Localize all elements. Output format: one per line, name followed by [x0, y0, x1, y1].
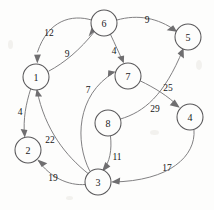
edge-layer	[21, 17, 195, 184]
edge-weight-6-7: 4	[112, 46, 117, 56]
edge-weight-6-1: 12	[44, 28, 54, 38]
edge-4-to-3	[111, 130, 194, 184]
node-label-2: 2	[26, 145, 31, 156]
edge-weight-4-3: 17	[162, 163, 172, 173]
graph-figure: 12 9 9 4 7 25 29 4 22 19 11 17 1 2	[0, 0, 214, 210]
graph-node-6[interactable]: 6	[91, 10, 117, 36]
edge-weight-6-5: 9	[145, 15, 150, 25]
graph-node-3[interactable]: 3	[85, 169, 111, 195]
arrow-head-3-7	[108, 70, 116, 77]
edge-weight-3-1: 22	[45, 135, 55, 145]
edge-6-to-1	[34, 18, 91, 64]
node-label-3: 3	[96, 177, 101, 188]
graph-node-5[interactable]: 5	[175, 24, 201, 50]
arrow-head-7-4	[170, 100, 180, 108]
arrow-head-3-2	[38, 160, 48, 168]
edge-weight-1-2: 4	[18, 107, 23, 117]
edge-weight-3-7: 7	[86, 85, 91, 95]
edge-7-to-4	[141, 81, 180, 108]
edge-1-to-6	[49, 26, 96, 71]
node-label-6: 6	[102, 18, 107, 29]
edge-weight-7-4: 25	[163, 83, 173, 93]
edge-path-4-3	[113, 130, 194, 182]
edge-weight-layer: 12 9 9 4 7 25 29 4 22 19 11 17	[18, 15, 173, 183]
edge-weight-1-6: 9	[65, 49, 70, 59]
edge-path-1-2	[24, 90, 30, 137]
arrow-head-6-1	[34, 54, 41, 63]
node-label-8: 8	[106, 118, 111, 129]
arrow-head-6-7	[117, 55, 124, 63]
node-label-7: 7	[126, 71, 131, 82]
arrow-head-1-2	[21, 129, 28, 138]
graph-node-1[interactable]: 1	[23, 64, 49, 90]
edge-weight-8-5: 29	[150, 104, 160, 114]
edge-3-to-1	[35, 89, 88, 174]
node-label-4: 4	[188, 112, 193, 123]
edge-3-to-2	[38, 160, 86, 185]
graph-node-7[interactable]: 7	[115, 63, 141, 89]
edge-8-to-3	[102, 136, 111, 172]
graph-node-8[interactable]: 8	[95, 110, 121, 136]
graph-node-4[interactable]: 4	[177, 104, 203, 130]
edge-path-1-6	[49, 32, 95, 72]
graph-canvas: 12 9 9 4 7 25 29 4 22 19 11 17 1 2	[0, 0, 214, 210]
arrow-head-4-3	[111, 178, 120, 185]
arrow-head-8-5	[178, 48, 184, 58]
edge-path-3-2	[39, 161, 86, 185]
edge-weight-3-2: 19	[48, 173, 58, 183]
node-label-1: 1	[34, 72, 39, 83]
edge-weight-8-3: 11	[112, 152, 121, 162]
node-label-5: 5	[186, 32, 191, 43]
graph-node-2[interactable]: 2	[15, 137, 41, 163]
